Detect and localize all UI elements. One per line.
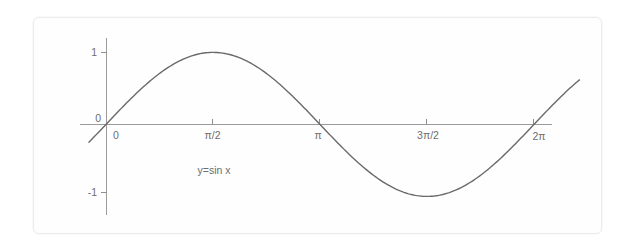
y-axis-label-0: 0 (95, 112, 101, 124)
x-axis-label-two-pi: 2π (532, 130, 545, 142)
curve-equation-label: y=sin x (198, 164, 232, 176)
y-axis-label-minus-1: -1 (88, 186, 97, 198)
y-axis-label-1: 1 (91, 46, 97, 58)
x-axis-label-pi: π (314, 129, 321, 141)
sine-plot-canvas: 1 0 -1 0 π/2 π 3π/2 2π y=sin x (0, 0, 631, 250)
x-axis-label-half-pi: π/2 (204, 129, 220, 141)
x-axis-label-0: 0 (113, 129, 119, 141)
x-axis-label-three-half-pi: 3π/2 (417, 129, 439, 141)
sine-curve-figure: 1 0 -1 0 π/2 π 3π/2 2π y=sin x (0, 0, 631, 250)
